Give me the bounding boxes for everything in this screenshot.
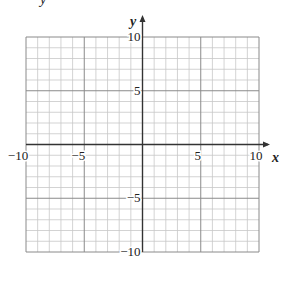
y-tick-label: 5 xyxy=(134,83,141,98)
y-arrow-icon xyxy=(140,15,146,22)
y-tick-label: −5 xyxy=(127,190,141,205)
x-arrow-icon xyxy=(263,142,270,148)
x-axis-label: x xyxy=(271,150,279,165)
x-tick-label: 10 xyxy=(250,148,263,163)
y-tick-label: 10 xyxy=(128,29,141,44)
x-tick-label: −10 xyxy=(8,148,28,163)
x-tick-label: 5 xyxy=(195,148,202,163)
y-tick-label: −10 xyxy=(120,244,140,259)
partial-top-text: y xyxy=(38,0,47,7)
x-tick-label: −5 xyxy=(71,148,85,163)
coordinate-grid: −10−5510105−5−10 y x y xyxy=(0,0,291,299)
y-axis-label: y xyxy=(128,14,137,29)
